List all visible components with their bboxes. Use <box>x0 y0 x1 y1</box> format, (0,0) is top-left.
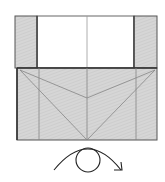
top-white-area <box>37 16 134 68</box>
turn-over-icon <box>54 148 122 172</box>
left-flap <box>15 16 37 68</box>
right-flap <box>134 16 157 68</box>
origami-diagram <box>0 0 165 182</box>
